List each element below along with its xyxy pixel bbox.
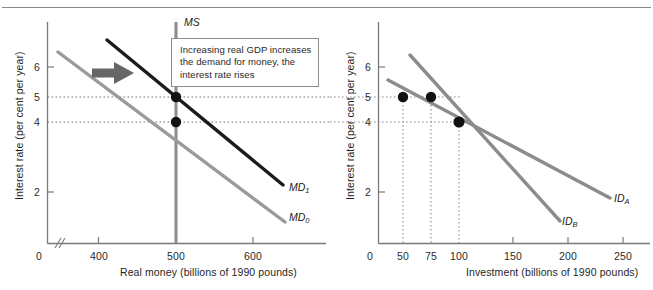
curve-label-ms: MS	[184, 16, 200, 28]
left-origin-label: 0	[32, 250, 46, 262]
right-dot-100-4	[453, 116, 464, 127]
curve-label-idb-text: ID	[562, 215, 573, 227]
curve-label-md1-text: MD	[289, 181, 305, 193]
left-equilibrium-dot-4	[171, 117, 181, 127]
right-y-axis-title: Interest rate (per cent per year)	[344, 51, 356, 200]
panel-investment-demand: 6 5 4 2 0 50 75 100 150 200 250 Interest…	[330, 0, 653, 290]
left-xtick-label-500: 500	[160, 250, 192, 262]
curve-ida	[388, 80, 610, 198]
right-xtick-label-200: 200	[553, 250, 583, 262]
right-xtick-label-100: 100	[444, 250, 474, 262]
left-equilibrium-dot-5	[171, 92, 181, 102]
right-xtick-label-50: 50	[390, 250, 416, 262]
left-xtick-label-400: 400	[83, 250, 115, 262]
curve-label-md0-sub: 0	[305, 216, 309, 225]
curve-label-md1: MD1	[289, 181, 310, 193]
curve-label-idb: IDB	[562, 215, 578, 227]
right-dot-50-5	[398, 92, 408, 102]
callout-money-market: Increasing real GDP increases the demand…	[171, 38, 319, 87]
curve-idb	[410, 55, 560, 221]
callout-left-line-3: interest rate rises	[180, 69, 311, 81]
figure-root: 6 5 4 2 0 400 500 600 Interest rate (per…	[0, 0, 653, 290]
right-origin-label: 0	[363, 250, 377, 262]
left-y-axis-title: Interest rate (per cent per year)	[13, 51, 25, 200]
callout-left-line-2: the demand for money, the	[180, 56, 311, 68]
curve-label-md0-text: MD	[289, 211, 305, 223]
right-xtick-label-250: 250	[608, 250, 638, 262]
right-dot-75-5	[426, 92, 436, 102]
curve-label-md1-sub: 1	[305, 186, 309, 195]
curve-label-md0: MD0	[289, 211, 310, 223]
callout-left-line-1: Increasing real GDP increases	[180, 44, 311, 56]
right-plot-canvas	[330, 0, 653, 290]
panel-money-market: 6 5 4 2 0 400 500 600 Interest rate (per…	[0, 0, 330, 290]
curve-label-idb-sub: B	[573, 220, 578, 229]
curve-label-ida-text: ID	[614, 192, 625, 204]
left-x-axis-title: Real money (billions of 1990 pounds)	[120, 266, 297, 278]
curve-label-ida-sub: A	[625, 197, 630, 206]
right-xtick-label-150: 150	[498, 250, 528, 262]
left-xtick-label-600: 600	[237, 250, 269, 262]
right-xtick-label-75: 75	[418, 250, 444, 262]
right-x-axis-title: Investment (billions of 1990 pounds)	[466, 266, 638, 278]
curve-label-ida: IDA	[614, 192, 630, 204]
